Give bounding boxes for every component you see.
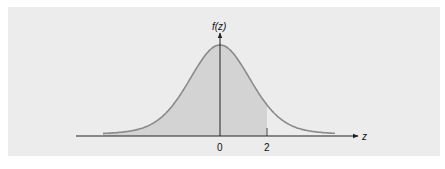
y-axis-label: f(z) [212,21,226,32]
tick-label-0: 0 [217,142,223,153]
shaded-area [103,45,267,136]
x-axis-label: z [361,131,367,142]
density-chart: f(z) z 0 2 [0,0,445,169]
tick-label-2: 2 [264,142,270,153]
